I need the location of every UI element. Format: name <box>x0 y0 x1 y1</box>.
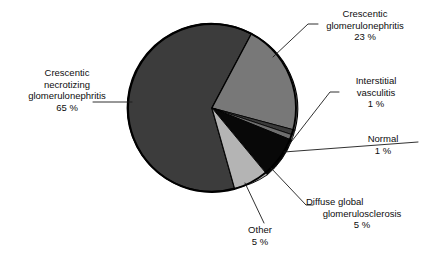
pie-label-line: glomerulosclerosis <box>306 208 418 220</box>
pie-label-line: Diffuse global <box>306 196 418 208</box>
pie-label-line: Other <box>232 224 288 236</box>
pie-label-normal: Normal 1 % <box>347 133 419 156</box>
pie-label-line: vasculitis <box>333 87 419 99</box>
pie-label-value: 1 % <box>347 145 419 157</box>
pie-chart-figure: Crescentic glomerulonephritis 23 % Inter… <box>0 0 423 265</box>
pie-label-line: Interstitial <box>333 75 419 87</box>
pie-label-value: 5 % <box>232 236 288 248</box>
pie-label-line: glomerulonephritis <box>8 90 126 102</box>
pie-label-other: Other 5 % <box>232 224 288 247</box>
pie-label-diffuse-global-glomerulosclerosis: Diffuse global glomerulosclerosis 5 % <box>306 196 418 231</box>
pie-label-line: Normal <box>347 133 419 145</box>
pie-label-line: necrotizing <box>8 79 126 91</box>
pie-label-crescentic-glomerulonephritis: Crescentic glomerulonephritis 23 % <box>311 8 419 43</box>
leader-line-other <box>245 183 264 223</box>
pie-label-value: 65 % <box>8 102 126 114</box>
pie-label-value: 23 % <box>311 31 419 43</box>
pie-label-value: 5 % <box>306 219 418 231</box>
pie-label-interstitial-vasculitis: Interstitial vasculitis 1 % <box>333 75 419 110</box>
pie-label-line: Crescentic <box>8 67 126 79</box>
pie-label-value: 1 % <box>333 98 419 110</box>
pie-label-crescentic-necrotizing-glomerulonephritis: Crescentic necrotizing glomerulonephriti… <box>8 67 126 113</box>
pie-label-line: Crescentic <box>311 8 419 20</box>
pie-label-line: glomerulonephritis <box>311 20 419 32</box>
